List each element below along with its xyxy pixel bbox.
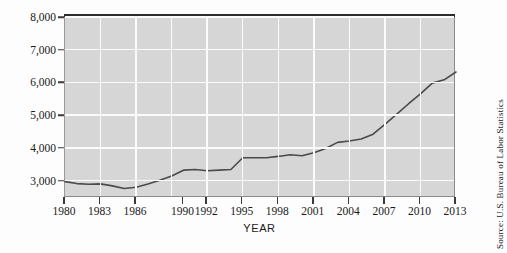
gridline-vertical xyxy=(313,17,315,196)
x-axis-tick-mark xyxy=(205,197,206,204)
y-axis-tick-mark xyxy=(58,180,64,182)
x-axis-title: YEAR xyxy=(64,222,455,234)
chart-figure: YEAR Source: U.S. Bureau of Labor Statis… xyxy=(0,0,507,253)
gridline-vertical xyxy=(100,17,102,196)
y-axis-tick-label: 4,000 xyxy=(30,142,56,154)
x-axis-tick-label: 2013 xyxy=(444,205,467,217)
x-axis-tick-mark xyxy=(182,197,183,204)
gridline-horizontal xyxy=(65,82,454,84)
x-axis-tick-mark xyxy=(63,197,64,204)
x-axis-tick-label: 2007 xyxy=(372,205,395,217)
x-axis-tick-label: 1998 xyxy=(266,205,289,217)
y-axis-tick-mark xyxy=(58,114,64,116)
gridline-vertical xyxy=(242,17,244,196)
gridline-vertical xyxy=(349,17,351,196)
y-axis-tick-label: 3,000 xyxy=(30,175,56,187)
gridline-vertical xyxy=(206,17,208,196)
y-axis-tick-label: 7,000 xyxy=(30,44,56,56)
x-axis-tick-mark xyxy=(277,197,278,204)
x-axis-tick-label: 1983 xyxy=(88,205,111,217)
x-axis-tick-mark xyxy=(348,197,349,204)
y-axis-tick-label: 5,000 xyxy=(30,109,56,121)
x-axis-tick-mark xyxy=(383,197,384,204)
x-axis-tick-mark xyxy=(454,197,455,204)
x-axis-tick-mark xyxy=(241,197,242,204)
x-axis-tick-label: 1992 xyxy=(195,205,218,217)
gridline-horizontal xyxy=(65,114,454,116)
gridline-vertical xyxy=(135,17,137,196)
x-axis-tick-label: 1980 xyxy=(53,205,76,217)
gridline-horizontal xyxy=(65,16,454,18)
x-axis-tick-mark xyxy=(134,197,135,204)
gridline-vertical xyxy=(384,17,386,196)
gridline-vertical xyxy=(278,17,280,196)
gridline-horizontal xyxy=(65,49,454,51)
x-axis-tick-mark xyxy=(419,197,420,204)
x-axis-tick-mark xyxy=(312,197,313,204)
gridline-vertical xyxy=(171,17,173,196)
data-series-line xyxy=(65,17,456,197)
x-axis-tick-label: 1986 xyxy=(124,205,147,217)
y-axis-tick-mark xyxy=(58,82,64,84)
gridline-horizontal xyxy=(65,180,454,182)
x-axis-tick-label: 1990 xyxy=(171,205,194,217)
source-attribution: Source: U.S. Bureau of Labor Statistics xyxy=(495,99,505,249)
y-axis-tick-label: 6,000 xyxy=(30,76,56,88)
gridline-vertical xyxy=(420,17,422,196)
y-axis-tick-mark xyxy=(58,147,64,149)
plot-area xyxy=(64,17,455,197)
x-axis-tick-label: 2010 xyxy=(408,205,431,217)
y-axis-tick-mark xyxy=(58,16,64,18)
x-axis-tick-label: 2001 xyxy=(301,205,324,217)
gridline-horizontal xyxy=(65,147,454,149)
y-axis-tick-mark xyxy=(58,49,64,51)
x-axis-tick-label: 1995 xyxy=(230,205,253,217)
x-axis-tick-mark xyxy=(99,197,100,204)
y-axis-tick-label: 8,000 xyxy=(30,11,56,23)
x-axis-tick-label: 2004 xyxy=(337,205,360,217)
